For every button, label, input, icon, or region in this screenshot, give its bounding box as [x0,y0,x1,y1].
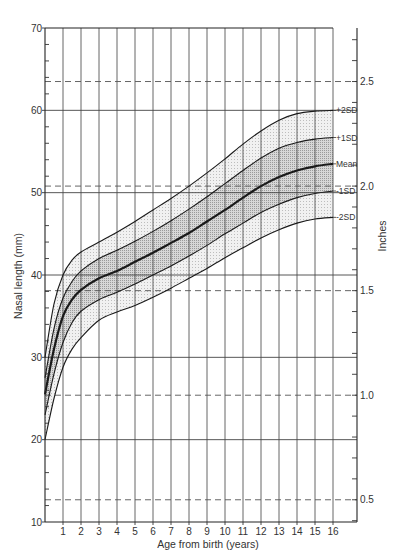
y2-tick-label: 1.5 [360,285,374,296]
x-tick-label: 10 [219,526,231,537]
x-tick-label: 5 [132,526,138,537]
x-tick-label: 12 [255,526,267,537]
sd-label-minus2sd: -2SD [336,212,355,222]
x-tick-label: 16 [327,526,339,537]
y2-tick-label: 2.0 [360,181,374,192]
sd-label-plus1sd: +1SD [336,133,358,143]
y2-tick-label: 0.5 [360,494,374,505]
y-tick-label: 60 [31,105,43,116]
chart-canvas: 10203040506070123456789101112131415160.5… [0,0,404,558]
y2-tick-label: 2.5 [360,76,374,87]
x-tick-label: 3 [96,526,102,537]
x-tick-label: 1 [60,526,66,537]
x-tick-label: 13 [273,526,285,537]
y-axis-title: Nasal length (mm) [12,233,24,319]
x-tick-label: 15 [309,526,321,537]
y-tick-label: 70 [31,23,43,34]
x-tick-label: 4 [114,526,120,537]
x-tick-label: 8 [186,526,192,537]
y2-tick-label: 1.0 [360,390,374,401]
x-tick-label: 6 [150,526,156,537]
x-tick-label: 9 [204,526,210,537]
sd-label-minus1sd: -1SD [336,186,355,196]
y-tick-label: 20 [31,434,43,445]
x-axis-title: Age from birth (years) [157,538,259,550]
x-tick-label: 2 [78,526,84,537]
y-tick-label: 50 [31,187,43,198]
y-tick-label: 10 [31,517,43,528]
y-tick-label: 30 [31,352,43,363]
y-tick-label: 40 [31,270,43,281]
x-tick-label: 11 [238,526,249,537]
y2-axis-title: Inches [376,221,388,252]
growth-chart: 10203040506070123456789101112131415160.5… [0,0,404,558]
grid-lines [45,28,357,522]
sd-label-mean: Mean [336,159,358,169]
x-tick-label: 7 [168,526,174,537]
x-tick-label: 14 [291,526,303,537]
sd-label-plus2sd: +2SD [336,105,358,115]
